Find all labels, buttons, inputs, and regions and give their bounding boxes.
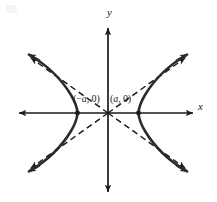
- hyperbola-plot-svg: [0, 0, 217, 202]
- left-vertex-label: (−a, 0): [73, 94, 100, 104]
- right-vertex-suffix: , 0): [118, 93, 131, 104]
- axes-group: [19, 28, 193, 192]
- y-axis-label: y: [107, 7, 112, 18]
- right-vertex-label: (a, 0): [110, 94, 131, 104]
- left-vertex-suffix: , 0): [87, 93, 100, 104]
- asymptote-lower-right: [108, 113, 185, 168]
- asymptote-upper-left: [31, 58, 108, 113]
- x-axis-label: x: [198, 101, 203, 112]
- right-vertex-point: [136, 111, 141, 116]
- left-vertex-point: [75, 111, 80, 116]
- asymptote-lower-left: [31, 113, 108, 168]
- asymptote-upper-right: [108, 58, 185, 113]
- left-vertex-prefix: (−: [73, 93, 82, 104]
- hyperbola-figure: y x (−a, 0) (a, 0): [0, 0, 217, 202]
